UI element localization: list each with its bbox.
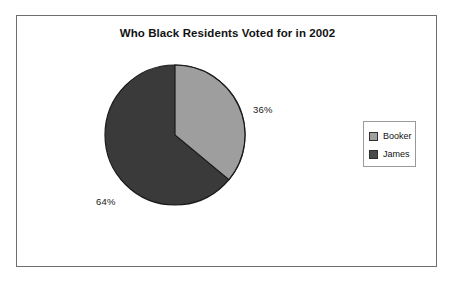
legend-swatch-booker-icon xyxy=(369,132,378,141)
legend-label-booker: Booker xyxy=(383,132,412,141)
chart-frame: Who Black Residents Voted for in 2002 36… xyxy=(16,15,437,267)
legend-item-james[interactable]: James xyxy=(369,145,415,163)
pie-chart-graphic xyxy=(102,62,248,208)
pie-data-label-james: 64% xyxy=(96,196,116,207)
pie-data-label-booker: 36% xyxy=(253,104,273,115)
chart-legend: Booker James xyxy=(363,121,416,167)
plot-area: 36% 64% xyxy=(17,16,357,268)
legend-swatch-james-icon xyxy=(369,150,378,159)
legend-item-booker[interactable]: Booker xyxy=(369,127,415,145)
legend-label-james: James xyxy=(383,150,410,159)
